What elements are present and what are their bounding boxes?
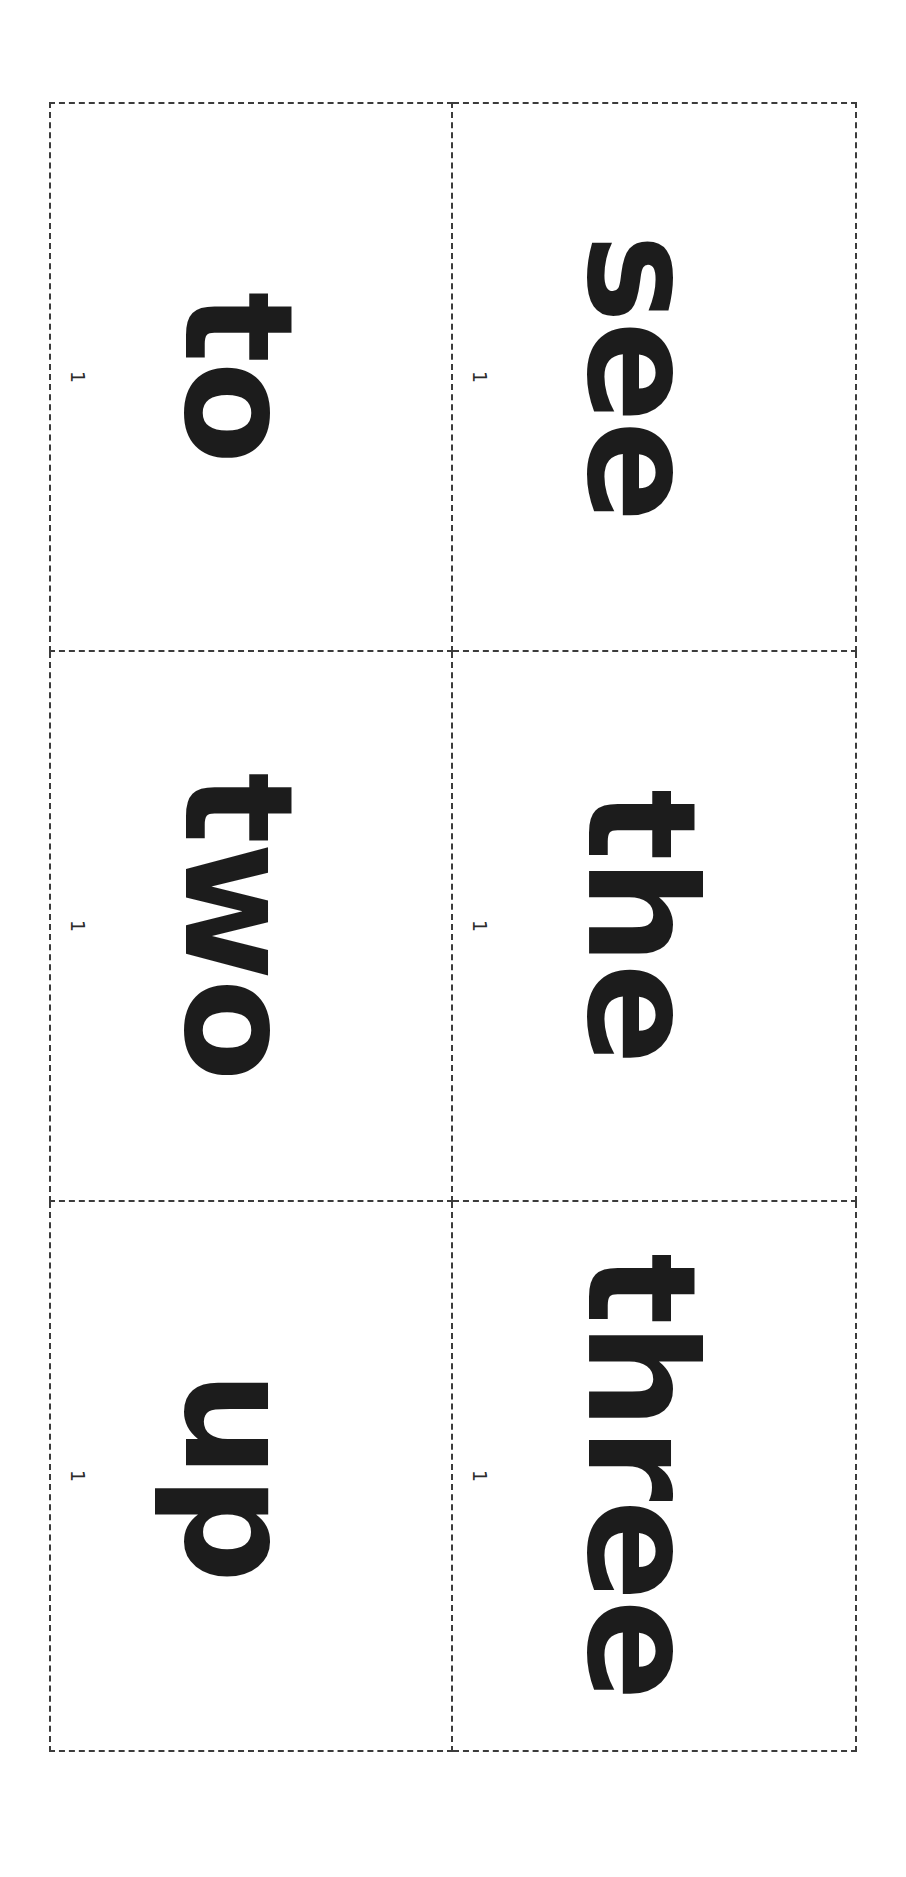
- flashcard-cell[interactable]: 1 the: [453, 652, 857, 1202]
- flashcard-word-container: see: [453, 104, 855, 650]
- flashcard-word-container: three: [453, 1202, 855, 1750]
- flashcard-word-container: the: [453, 652, 855, 1200]
- flashcard-word-container: up: [51, 1202, 451, 1750]
- flashcard-word: see: [566, 234, 716, 521]
- flashcard-cell[interactable]: 1 two: [49, 652, 453, 1202]
- flashcard-cell[interactable]: 1 three: [453, 1202, 857, 1752]
- flashcard-sheet: 1 to 1 see 1 two 1 the 1 up 1 three: [49, 102, 857, 1752]
- flashcard-word-container: two: [51, 652, 451, 1200]
- flashcard-word: to: [163, 292, 313, 463]
- flashcard-cell[interactable]: 1 to: [49, 102, 453, 652]
- flashcard-word-container: to: [51, 104, 451, 650]
- flashcard-cell[interactable]: 1 up: [49, 1202, 453, 1752]
- flashcard-word: up: [163, 1371, 313, 1581]
- flashcard-word: two: [163, 772, 313, 1079]
- flashcard-cell[interactable]: 1 see: [453, 102, 857, 652]
- flashcard-word: three: [566, 1253, 716, 1699]
- flashcard-word: the: [566, 789, 716, 1063]
